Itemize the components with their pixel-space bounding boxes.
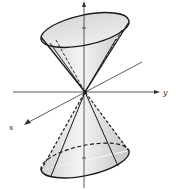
lower-nappe (41, 92, 129, 178)
y-axis-label: y (162, 88, 168, 97)
arrow-head-icon (82, 1, 86, 7)
upper-nappe (38, 6, 132, 92)
arrow-head-icon (24, 119, 31, 125)
arrow-head-icon (154, 90, 160, 94)
x-axis-label: x (9, 123, 14, 132)
double-cone-diagram: y x (0, 0, 176, 190)
vertex-point (83, 90, 86, 93)
